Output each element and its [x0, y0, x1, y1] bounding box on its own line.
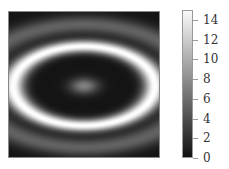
- colorbar-tick: [193, 40, 198, 41]
- colorbar-tick-label: 8: [203, 73, 211, 85]
- colorbar-tick-label: 10: [203, 53, 218, 65]
- colorbar-tick-label: 12: [203, 34, 218, 46]
- colorbar-tick-label: 0: [203, 152, 211, 164]
- colorbar-tick: [193, 99, 198, 100]
- colorbar-tick-label: 2: [203, 132, 211, 144]
- colorbar-tick: [193, 79, 198, 80]
- colorbar-tick: [193, 20, 198, 21]
- colorbar-tick-label: 14: [203, 14, 218, 26]
- colorbar-tick-label: 6: [203, 93, 211, 105]
- colorbar-tick: [193, 119, 198, 120]
- heatmap-plot: [8, 11, 160, 158]
- colorbar-tick-label: 4: [203, 113, 211, 125]
- colorbar: [182, 10, 193, 158]
- colorbar-tick: [193, 158, 198, 159]
- colorbar-tick: [193, 59, 198, 60]
- colorbar-tick: [193, 138, 198, 139]
